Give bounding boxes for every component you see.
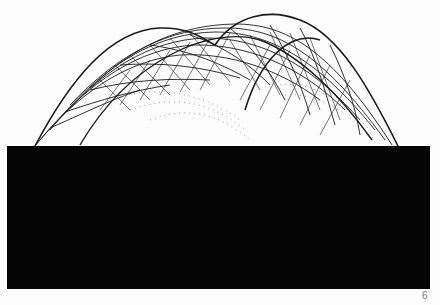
book-page: 6	[0, 0, 440, 305]
page-number: 6	[422, 290, 428, 301]
mesh-surface-artwork	[0, 0, 440, 305]
upper-mesh	[35, 14, 398, 146]
lower-mesh	[35, 146, 398, 278]
